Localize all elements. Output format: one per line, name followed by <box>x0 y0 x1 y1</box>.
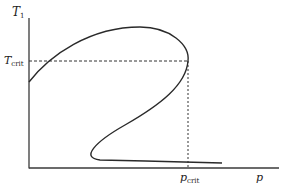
y-axis-label-main: T <box>12 5 20 19</box>
p-crit-label-sub: crit <box>187 177 199 185</box>
s-curve <box>29 27 222 163</box>
t-crit-label-sub: crit <box>11 60 23 68</box>
s-curve-diagram <box>0 0 285 188</box>
t-crit-label: Tcrit <box>4 55 24 68</box>
x-axis-label: p <box>256 172 263 183</box>
p-crit-label-main: p <box>180 171 187 184</box>
p-crit-label: pcrit <box>180 172 199 185</box>
y-axis-label-sub: 1 <box>20 12 24 20</box>
y-axis-label: T1 <box>12 6 24 20</box>
x-axis-label-main: p <box>256 171 263 184</box>
